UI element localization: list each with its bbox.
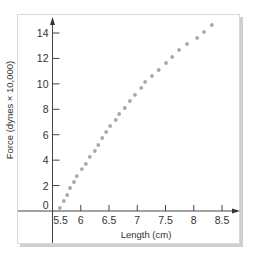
data-point xyxy=(170,55,174,59)
data-point xyxy=(72,180,76,184)
data-point xyxy=(104,130,108,134)
axes xyxy=(18,17,240,243)
y-tick-label: 2 xyxy=(43,180,49,192)
data-point xyxy=(202,30,206,34)
data-point xyxy=(117,112,121,116)
y-axis-arrow-icon xyxy=(50,17,55,25)
x-tick-label: 6.5 xyxy=(102,214,117,226)
y-tick-label: 4 xyxy=(43,154,49,166)
data-point xyxy=(177,48,181,52)
data-point xyxy=(68,186,72,190)
data-point xyxy=(96,143,100,147)
data-point xyxy=(210,23,214,27)
y-axis-label: Force (dynes × 10,000) xyxy=(4,61,15,159)
data-point xyxy=(75,174,79,178)
y-tick-label: 14 xyxy=(37,27,49,39)
y-tick-label: 0 xyxy=(43,199,49,211)
data-points xyxy=(58,23,214,210)
y-tick-label: 8 xyxy=(43,103,49,115)
data-point xyxy=(84,162,88,166)
data-point xyxy=(114,118,118,122)
data-point xyxy=(88,155,92,159)
scatter-chart: 5.566.577.588.5 02468101214 Length (cm) … xyxy=(0,0,256,257)
y-axis-ticks: 02468101214 xyxy=(37,27,60,211)
data-point xyxy=(128,99,132,103)
data-point xyxy=(139,86,143,90)
data-point xyxy=(157,68,161,72)
x-tick-label: 8.5 xyxy=(215,214,230,226)
x-tick-label: 7.5 xyxy=(158,214,173,226)
x-tick-label: 5.5 xyxy=(53,214,68,226)
y-tick-label: 10 xyxy=(37,78,49,90)
x-axis-ticks: 5.566.577.588.5 xyxy=(53,205,229,226)
data-point xyxy=(108,124,112,128)
y-tick-label: 6 xyxy=(43,129,49,141)
data-point xyxy=(150,74,154,78)
x-tick-label: 7 xyxy=(134,214,140,226)
data-point xyxy=(58,206,62,210)
x-tick-label: 8 xyxy=(191,214,197,226)
data-point xyxy=(133,93,137,97)
y-tick-label: 12 xyxy=(37,52,49,64)
x-axis-label: Length (cm) xyxy=(121,229,172,240)
data-point xyxy=(143,80,147,84)
data-point xyxy=(100,136,104,140)
data-point xyxy=(123,106,127,110)
x-tick-label: 6 xyxy=(78,214,84,226)
data-point xyxy=(62,199,66,203)
data-point xyxy=(164,61,168,65)
data-point xyxy=(93,149,97,153)
data-point xyxy=(185,42,189,46)
x-axis-arrow-icon xyxy=(232,209,240,214)
data-point xyxy=(195,36,199,40)
data-point xyxy=(65,193,69,197)
data-point xyxy=(80,167,84,171)
